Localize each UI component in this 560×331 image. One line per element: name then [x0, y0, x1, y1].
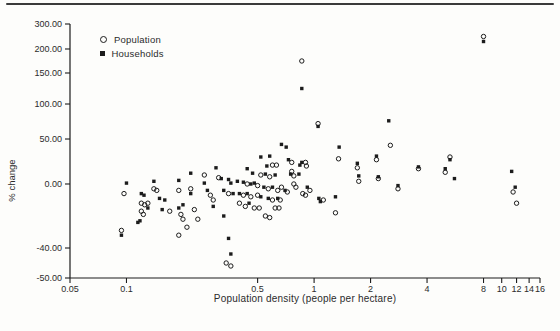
- households-point: [212, 205, 215, 208]
- households-point: [229, 252, 232, 255]
- households-point: [453, 177, 456, 180]
- y-tick-label: 300.00: [34, 19, 62, 29]
- households-point: [356, 162, 359, 165]
- y-tick-label: -40.00: [36, 243, 62, 253]
- legend: Population Households: [100, 33, 164, 60]
- population-point: [237, 201, 241, 205]
- households-point: [387, 119, 390, 122]
- households-point: [227, 237, 230, 240]
- households-point: [357, 174, 360, 177]
- households-point: [203, 181, 206, 184]
- population-point: [241, 193, 245, 197]
- households-point: [152, 180, 155, 183]
- households-point: [222, 189, 225, 192]
- population-point: [208, 193, 212, 197]
- population-point: [300, 59, 304, 63]
- households-point: [300, 87, 303, 90]
- legend-label-households: Households: [112, 48, 164, 59]
- population-point: [189, 187, 193, 191]
- x-axis-title: Population density (people per hectare): [70, 293, 540, 304]
- households-point: [189, 192, 192, 195]
- population-point: [245, 182, 249, 186]
- households-point: [262, 185, 265, 188]
- population-point: [263, 214, 267, 218]
- households-point: [236, 180, 239, 183]
- households-point: [267, 197, 270, 200]
- households-point: [284, 145, 287, 148]
- population-point: [177, 188, 181, 192]
- population-point: [481, 34, 485, 38]
- population-point: [511, 190, 515, 194]
- open-circle-marker-icon: [100, 36, 107, 43]
- households-point: [125, 181, 128, 184]
- population-point: [122, 191, 126, 195]
- y-tick-label: 200.00: [34, 44, 62, 54]
- population-point: [177, 233, 181, 237]
- households-point: [268, 154, 271, 157]
- legend-item-households: Households: [100, 47, 164, 60]
- population-point: [185, 225, 189, 229]
- population-point: [168, 209, 172, 213]
- households-point: [181, 203, 184, 206]
- population-point: [196, 217, 200, 221]
- population-point: [249, 195, 253, 199]
- population-point: [192, 207, 196, 211]
- y-tick-label: 0.00: [44, 179, 62, 189]
- filled-square-marker-icon: [100, 51, 105, 56]
- population-point: [226, 191, 230, 195]
- population-point: [292, 174, 296, 178]
- population-point: [252, 206, 256, 210]
- households-point: [264, 172, 267, 175]
- households-point: [177, 206, 180, 209]
- y-tick-label: 50.00: [39, 134, 62, 144]
- households-point: [482, 40, 485, 43]
- population-point: [243, 204, 247, 208]
- households-point: [513, 185, 516, 188]
- households-point: [231, 192, 234, 195]
- population-point: [336, 157, 340, 161]
- households-point: [273, 173, 276, 176]
- population-point: [374, 158, 378, 162]
- population-point: [279, 185, 283, 189]
- y-tick-label: 100.00: [34, 99, 62, 109]
- households-point: [142, 193, 145, 196]
- population-point: [266, 187, 270, 191]
- households-point: [297, 172, 300, 175]
- population-point: [259, 173, 263, 177]
- households-point: [214, 166, 217, 169]
- population-point: [179, 212, 183, 216]
- households-point: [227, 178, 230, 181]
- households-point: [334, 195, 337, 198]
- households-point: [317, 197, 320, 200]
- scatter-chart-canvas: 300.00200.00150.00100.0050.000.00-40.00-…: [0, 0, 560, 331]
- households-point: [120, 234, 123, 237]
- population-point: [514, 201, 518, 205]
- households-point: [158, 197, 161, 200]
- population-point: [355, 166, 359, 170]
- households-point: [206, 189, 209, 192]
- households-point: [138, 219, 141, 222]
- population-point: [333, 211, 337, 215]
- population-point: [268, 215, 272, 219]
- population-point: [290, 160, 294, 164]
- households-point: [163, 198, 166, 201]
- population-point: [224, 261, 228, 265]
- households-point: [245, 167, 248, 170]
- scanned-scatter-figure: 300.00200.00150.00100.0050.000.00-40.00-…: [0, 0, 560, 331]
- households-point: [265, 164, 268, 167]
- legend-label-population: Population: [114, 34, 161, 45]
- households-point: [510, 170, 513, 173]
- households-point: [259, 155, 262, 158]
- households-point: [229, 181, 232, 184]
- households-point: [238, 192, 241, 195]
- households-point: [146, 206, 149, 209]
- legend-item-population: Population: [100, 33, 164, 46]
- population-point: [268, 175, 272, 179]
- population-point: [388, 143, 392, 147]
- households-point: [247, 201, 250, 204]
- population-point: [308, 188, 312, 192]
- households-point: [160, 208, 163, 211]
- y-axis-title: % change: [6, 146, 17, 216]
- households-point: [177, 179, 180, 182]
- y-tick-label: 150.00: [34, 68, 62, 78]
